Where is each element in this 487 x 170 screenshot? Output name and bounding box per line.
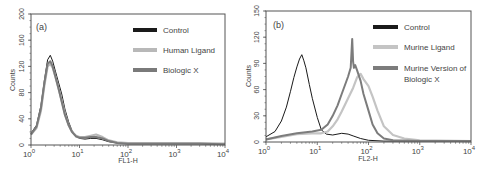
x-tick-label: 101	[309, 145, 322, 156]
panel-b-plot-frame	[266, 11, 471, 142]
legend-swatch-human-ligand	[133, 48, 157, 52]
y-tick-label: 0	[253, 140, 260, 144]
panel-b-x-ticks: 100101102103104	[258, 142, 476, 156]
y-tick-label: 0	[18, 143, 25, 147]
y-tick-label: 160	[18, 34, 25, 46]
y-tick-label: 30	[253, 112, 260, 120]
panel-b-curves	[266, 39, 471, 141]
y-tick-label: 40	[18, 115, 25, 123]
x-tick-label: 104	[463, 145, 476, 156]
series-curve	[266, 39, 471, 141]
panel-a-x-axis-label: FL1-H	[118, 157, 137, 164]
panel-b-y-ticks: 0306090120150	[253, 5, 266, 144]
panel-b-x-axis-label: FL2-H	[358, 155, 377, 162]
y-tick-label: 120	[253, 31, 260, 43]
legend-swatch-biologic-x	[133, 68, 157, 72]
legend-label-human-ligand: Human Ligand	[163, 46, 215, 55]
panel-a-label: (a)	[36, 22, 47, 32]
x-tick-label: 101	[71, 148, 84, 159]
legend-label-murine-biologic-x-line2: Biologic X	[404, 75, 440, 84]
legend-label-murine-biologic-x-line1: Murine Version of	[404, 64, 467, 73]
series-curve	[31, 64, 225, 144]
panel-a-y-ticks: 04080120160200	[18, 8, 31, 147]
x-tick-label: 103	[412, 145, 425, 156]
y-tick-label: 90	[253, 59, 260, 67]
figure: 04080120160200 100101102103104 (a) FL1-H…	[0, 0, 487, 170]
panel-a-plot-frame	[31, 14, 225, 145]
panel-a-histogram: 04080120160200 100101102103104 (a) FL1-H…	[9, 8, 230, 164]
legend-swatch-murine-biologic-x	[373, 66, 398, 70]
y-tick-label: 150	[253, 5, 260, 17]
y-tick-label: 200	[18, 8, 25, 20]
x-tick-label: 100	[23, 148, 36, 159]
panel-a-legend: Control Human Ligand Biologic X	[133, 26, 215, 75]
legend-swatch-control	[133, 28, 157, 32]
legend-label-biologic-x: Biologic X	[163, 66, 199, 75]
panel-b-y-axis-label: Counts	[245, 64, 252, 87]
y-tick-label: 120	[18, 60, 25, 72]
legend-swatch-murine-ligand	[373, 45, 398, 49]
panel-a-y-axis-label: Counts	[9, 68, 16, 91]
x-tick-label: 104	[217, 148, 230, 159]
legend-label-murine-ligand: Murine Ligand	[404, 43, 455, 52]
legend-label-control: Control	[163, 26, 189, 35]
y-tick-label: 60	[253, 86, 260, 94]
panel-b-histogram: 0306090120150 100101102103104 (b) FL2-H …	[245, 5, 476, 162]
y-tick-label: 80	[18, 89, 25, 97]
legend-label-control: Control	[404, 23, 430, 32]
x-tick-label: 103	[168, 148, 181, 159]
panel-b-label: (b)	[273, 20, 284, 30]
panel-b-legend: Control Murine Ligand Murine Version of …	[373, 23, 467, 84]
x-tick-label: 100	[258, 145, 271, 156]
legend-swatch-control	[373, 25, 398, 29]
